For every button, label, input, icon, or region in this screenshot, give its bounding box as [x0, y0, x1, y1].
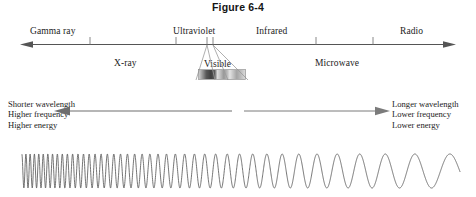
band-label-microwave: Microwave — [315, 58, 359, 68]
direction-left-block: Shorter wavelength Higher frequency High… — [8, 99, 75, 130]
direction-left-line-3: Higher energy — [8, 120, 75, 130]
chirped-wave — [22, 154, 460, 188]
direction-right-line-1: Longer wavelength — [392, 99, 459, 109]
spectrum-axis-arrowhead-left — [20, 41, 33, 48]
arrow-longer-wavelength — [244, 107, 390, 115]
spectrum-axis-arrowhead-right — [443, 41, 456, 48]
band-label-gamma-ray: Gamma ray — [30, 26, 75, 36]
visible-callout-label: Visible — [204, 59, 231, 69]
arrow-shorter-wavelength — [54, 107, 232, 116]
band-label-infrared: Infrared — [256, 26, 287, 36]
band-label-ultraviolet: Ultraviolet — [173, 26, 215, 36]
direction-left-line-2: Higher frequency — [8, 109, 75, 119]
direction-right-line-2: Lower frequency — [392, 109, 459, 119]
direction-right-line-3: Lower energy — [392, 120, 459, 130]
figure-title: Figure 6-4 — [0, 1, 476, 13]
direction-left-line-1: Shorter wavelength — [8, 99, 75, 109]
visible-spectrum-strip — [199, 70, 245, 79]
figure-container: Figure 6-4 Gamma ray Ultraviolet Infrare… — [0, 0, 476, 197]
band-label-x-ray: X-ray — [114, 58, 137, 68]
direction-right-block: Longer wavelength Lower frequency Lower … — [392, 99, 459, 130]
spectrum-axis-ticks — [90, 37, 373, 45]
band-label-radio: Radio — [400, 26, 423, 36]
spectrum-axis — [20, 37, 456, 48]
arrow-right-head — [375, 107, 390, 115]
